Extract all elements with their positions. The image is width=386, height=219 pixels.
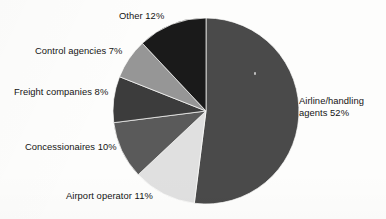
pie-chart-figure: Other 12% Control agencies 7% Freight co…	[0, 0, 386, 219]
slice-label-airport-operator: Airport operator 11%	[66, 190, 153, 202]
slice-label-airline-line2: agents 52%	[299, 107, 349, 118]
slice-label-airline-handling-agents: Airline/handling agents 52%	[299, 95, 379, 118]
slice-label-control-agencies: Control agencies 7%	[35, 45, 122, 57]
slice-label-airline-line1: Airline/handling	[299, 95, 364, 106]
slice-label-freight-companies: Freight companies 8%	[14, 86, 108, 98]
pie-slice-airline-handling-agents	[194, 18, 299, 204]
pie-slice-group	[113, 18, 299, 204]
slice-label-other: Other 12%	[119, 10, 164, 22]
slice-label-concessionaires: Concessionaires 10%	[25, 141, 117, 153]
scan-speck	[254, 72, 256, 75]
